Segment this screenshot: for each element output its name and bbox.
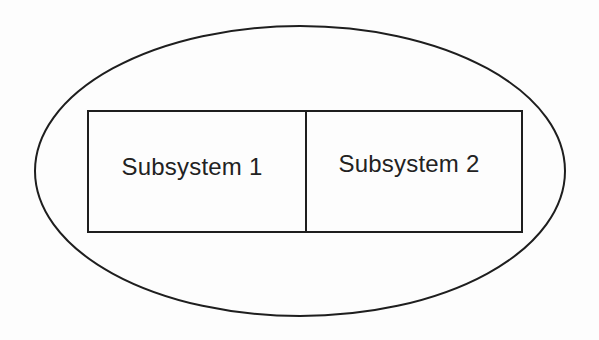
diagram-canvas: Subsystem 1 Subsystem 2 [0, 0, 599, 340]
diagram-svg [0, 0, 599, 340]
system-boundary-ellipse [35, 26, 565, 316]
subsystem-2-label: Subsystem 2 [339, 150, 480, 178]
subsystem-1-label: Subsystem 1 [122, 153, 263, 181]
